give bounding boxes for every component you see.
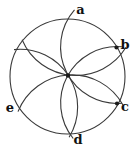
label-a: a [76, 2, 85, 17]
label-d: d [73, 132, 82, 147]
arc-centered-c [61, 47, 122, 139]
arc-centered-e [14, 49, 78, 137]
geometry-figure: abcde [0, 0, 137, 149]
arc-centered-a [22, 40, 126, 76]
point-c-dot [115, 101, 119, 105]
label-e: e [6, 100, 14, 115]
center-dot [66, 73, 70, 77]
arc-centered-d [18, 75, 123, 112]
point-b-dot [114, 45, 118, 49]
figure-svg: abcde [0, 0, 137, 149]
label-b: b [120, 37, 129, 52]
label-c: c [121, 99, 129, 114]
